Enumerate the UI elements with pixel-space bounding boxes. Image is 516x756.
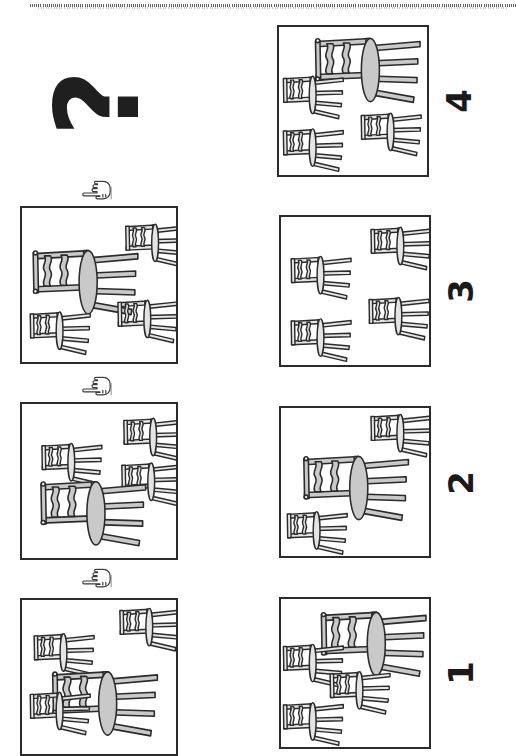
answer-option-4-number: 4 xyxy=(442,78,476,124)
sequence-panel-1 xyxy=(20,598,178,756)
small-chair xyxy=(126,224,176,267)
answers-title: answer options xyxy=(0,0,1,1)
pointing-hand-icon xyxy=(81,376,115,402)
answer-option-3-art xyxy=(281,217,429,365)
small-chair xyxy=(291,319,351,361)
sequence-title: chair arrangement sequence xyxy=(0,0,1,1)
sequence-panel-2-art xyxy=(22,404,176,558)
small-chair xyxy=(283,703,343,745)
small-chair xyxy=(120,608,176,651)
pointing-hand-icon xyxy=(81,568,115,594)
answer-option-1-number: 1 xyxy=(444,650,478,696)
small-chair xyxy=(30,692,90,735)
answer-option-4[interactable] xyxy=(277,25,429,177)
big-chair xyxy=(41,482,146,546)
small-chair xyxy=(369,297,429,339)
question-mark-glyph: ? xyxy=(46,52,150,156)
answer-option-2-number: 2 xyxy=(444,460,478,506)
small-chair xyxy=(371,227,429,269)
answer-option-2-art xyxy=(281,408,429,556)
sequence-panel-2 xyxy=(20,402,178,560)
big-chair xyxy=(53,672,158,736)
sequence-panel-3 xyxy=(20,206,178,364)
small-chair xyxy=(361,113,421,155)
answer-option-2[interactable] xyxy=(279,406,431,558)
small-chair xyxy=(34,634,94,677)
answer-option-3-number: 3 xyxy=(444,268,478,314)
sequence-panel-1-art xyxy=(22,600,176,754)
question-mark: ? xyxy=(46,52,150,156)
small-chair xyxy=(30,312,90,355)
answer-option-1[interactable] xyxy=(279,597,431,749)
small-chair xyxy=(283,76,343,118)
small-chair xyxy=(118,300,176,343)
small-chair xyxy=(122,463,176,506)
answer-option-3[interactable] xyxy=(279,215,431,367)
small-chair xyxy=(42,444,102,487)
answer-option-1-art xyxy=(281,599,429,747)
sequence-panel-3-art xyxy=(22,208,176,362)
small-chair xyxy=(291,257,351,299)
small-chair xyxy=(287,512,347,554)
big-chair xyxy=(304,456,409,520)
small-chair xyxy=(371,414,429,456)
page-top-divider xyxy=(30,4,516,7)
answer-option-4-art xyxy=(279,27,427,175)
small-chair xyxy=(283,129,343,171)
small-chair xyxy=(124,418,176,461)
big-chair xyxy=(321,612,426,676)
pointing-hand-icon xyxy=(81,180,115,206)
